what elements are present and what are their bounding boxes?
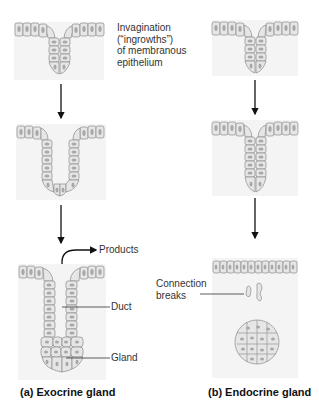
exocrine-stage2-ingrowth [16, 124, 106, 200]
endocrine-stage3-gland [212, 258, 298, 378]
caption-endocrine-gland: (b) Endocrine gland [208, 386, 311, 398]
endocrine-stage2-ingrowth [212, 120, 298, 196]
duct-label: Duct [111, 301, 132, 313]
exocrine-stage1-epithelium [14, 22, 104, 80]
gland-label: Gland [111, 352, 138, 364]
invagination-label: Invagination (“ingrowths”) of membranous… [117, 22, 186, 68]
connection-breaks-label: Connection breaks [156, 278, 207, 301]
exocrine-stage3-gland [18, 264, 106, 380]
products-label: Products [99, 244, 138, 256]
endocrine-stage1-epithelium [212, 20, 298, 76]
caption-exocrine-gland: (a) Exocrine gland [20, 386, 115, 398]
